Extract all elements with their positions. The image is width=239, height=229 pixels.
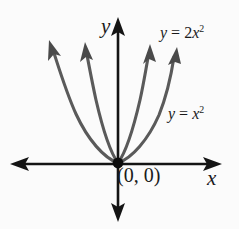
curve-label-x-squared-exponent: 2: [199, 104, 204, 115]
curve-2x2-right-arrowhead: [143, 44, 156, 64]
curve-2x2-left-branch: [86, 50, 118, 163]
curve-label-2x-squared-coefficient: 2: [184, 24, 192, 41]
parabola-graph-figure: y x y=2x2 y=x2 (0, 0): [0, 0, 239, 229]
y-axis-label: y: [101, 16, 110, 37]
curve-arrowheads-group: [48, 40, 181, 65]
curve-label-x-squared-op: =: [179, 105, 188, 122]
curve-label-2x-squared-exponent: 2: [199, 23, 204, 34]
parabola-curves-group: [53, 50, 174, 163]
curve-label-2x-squared-op: =: [171, 24, 180, 41]
curve-label-2x-squared-var: y: [160, 24, 167, 41]
x-axis-label: x: [207, 168, 216, 189]
curve-2x2-right-branch: [118, 53, 149, 163]
curve-label-x-squared: y=x2: [168, 106, 204, 122]
curve-label-x-squared-var: y: [168, 105, 175, 122]
origin-point-label: (0, 0): [117, 165, 160, 185]
curve-label-2x-squared: y=2x2: [160, 25, 204, 41]
